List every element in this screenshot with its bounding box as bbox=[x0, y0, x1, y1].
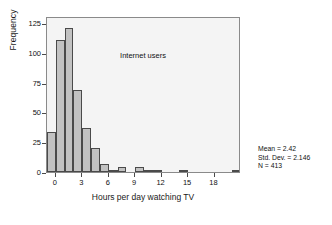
stat-std-dev: Std. Dev. = 2.146 bbox=[258, 154, 310, 163]
histogram-bar bbox=[118, 167, 127, 172]
x-axis-tick-mark bbox=[214, 173, 215, 177]
y-axis-tick-label: 125 bbox=[0, 19, 46, 29]
x-axis-tick-label: 6 bbox=[96, 178, 120, 187]
stat-mean: Mean = 2.42 bbox=[258, 145, 310, 154]
y-axis-tick-label: 100 bbox=[0, 49, 46, 59]
x-axis-title: Hours per day watching TV bbox=[46, 192, 240, 202]
x-axis-tick-label: 3 bbox=[69, 178, 93, 187]
x-axis-tick-label: 0 bbox=[43, 178, 67, 187]
plot-area: Internet users bbox=[46, 17, 240, 173]
histogram-figure: Frequency 0255075100125 Internet users 0… bbox=[0, 0, 332, 225]
histogram-bar bbox=[73, 90, 82, 172]
plot-annotation-label: Internet users bbox=[120, 51, 166, 60]
histogram-bar bbox=[82, 128, 91, 172]
x-axis-tick-label: 12 bbox=[149, 178, 173, 187]
y-axis-title: Frequency bbox=[8, 0, 22, 80]
x-axis-tick-mark bbox=[55, 173, 56, 177]
stat-n: N = 413 bbox=[258, 162, 310, 171]
x-axis-tick-label: 18 bbox=[202, 178, 226, 187]
y-axis-tick-label: 50 bbox=[0, 108, 46, 118]
histogram-bar bbox=[232, 170, 240, 172]
bars-layer bbox=[47, 18, 239, 172]
histogram-bar bbox=[56, 40, 65, 172]
histogram-bar bbox=[91, 148, 100, 172]
histogram-bar bbox=[47, 132, 56, 172]
y-axis-tick-label: 25 bbox=[0, 138, 46, 148]
statistics-annotation: Mean = 2.42 Std. Dev. = 2.146 N = 413 bbox=[258, 145, 310, 171]
histogram-bar bbox=[100, 164, 109, 172]
y-axis-tick-mark bbox=[42, 173, 46, 174]
y-axis-tick-label: 75 bbox=[0, 79, 46, 89]
histogram-bar bbox=[179, 170, 188, 172]
x-axis-tick-label: 9 bbox=[122, 178, 146, 187]
x-axis-tick-mark bbox=[108, 173, 109, 177]
histogram-bar bbox=[65, 28, 74, 172]
x-axis-tick-mark bbox=[81, 173, 82, 177]
histogram-bar bbox=[144, 170, 153, 172]
x-axis-tick-mark bbox=[187, 173, 188, 177]
histogram-bar bbox=[135, 167, 144, 172]
y-axis-tick-label: 0 bbox=[0, 168, 46, 178]
histogram-bar bbox=[153, 170, 162, 172]
histogram-bar bbox=[109, 170, 118, 172]
x-axis-tick-mark bbox=[134, 173, 135, 177]
x-axis-tick-mark bbox=[161, 173, 162, 177]
x-axis-tick-label: 15 bbox=[175, 178, 199, 187]
